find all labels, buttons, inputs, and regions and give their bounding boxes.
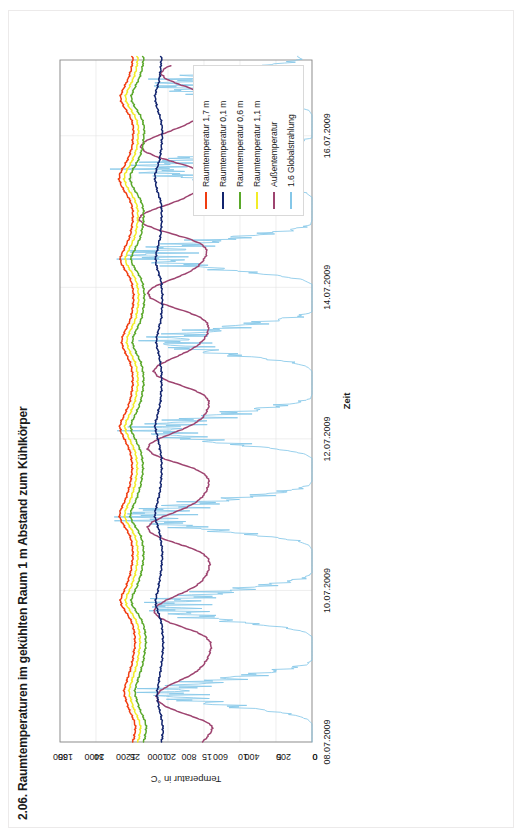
legend-item-label: Raumtemperatur 0,6 m [235,101,245,187]
series-line [154,57,164,742]
legend-item: Außentemperatur [266,72,282,209]
axis-tick-date: 14.07.2009 [322,265,332,310]
axis-tick-radiation: 200 [276,752,291,762]
axis-tick-radiation: 600 [213,752,228,762]
axis-tick-radiation: 1400 [84,752,104,762]
legend-item-label: Raumtemperatur 0,1 m [218,101,228,187]
legend-color-swatch [273,192,275,209]
axis-title-time: Zeit [341,393,352,410]
legend-color-swatch [222,192,224,209]
legend-color-swatch [256,192,258,209]
axis-title-temperature: Temperatur in °C [151,774,222,785]
page-title: 2.06. Raumtemperaturen im gekühlten Raum… [16,406,30,820]
legend-item-label: 1.6 Globalstrahlung [286,114,296,187]
legend-item: Raumtemperatur 0,1 m [215,72,231,209]
axis-tick-date: 08.07.2009 [322,719,332,764]
axis-tick-date: 16.07.2009 [322,113,332,158]
axis-tick-radiation: 400 [244,752,259,762]
chart-legend: Raumtemperatur 1,7 mRaumtemperatur 0,1 m… [193,65,304,216]
legend-item-label: Raumtemperatur 1,1 m [252,101,262,187]
legend-item: 1.6 Globalstrahlung [283,72,299,209]
legend-item-label: Raumtemperatur 1,7 m [201,101,211,187]
legend-color-swatch [205,192,207,209]
axis-tick-radiation: 1000 [147,752,167,762]
legend-color-swatch [239,192,241,209]
axis-tick-date: 10.07.2009 [322,568,332,613]
rotated-chart-canvas: 2.06. Raumtemperaturen im gekühlten Raum… [0,0,524,838]
axis-tick-date: 12.07.2009 [322,416,332,461]
legend-item: Raumtemperatur 0,6 m [232,72,248,209]
axis-tick-radiation: 1600 [53,752,73,762]
scanned-page: 2.06. Raumtemperaturen im gekühlten Raum… [0,0,524,838]
legend-item: Raumtemperatur 1,7 m [198,72,214,209]
legend-item: Raumtemperatur 1,1 m [249,72,265,209]
axis-tick-radiation: 800 [181,752,196,762]
axis-tick-radiation: 1200 [116,752,136,762]
legend-color-swatch [290,192,292,209]
legend-item-label: Außentemperatur [269,122,279,187]
axis-tick-temperature: 15 [202,752,212,762]
axis-tick-radiation: 0 [312,752,317,762]
